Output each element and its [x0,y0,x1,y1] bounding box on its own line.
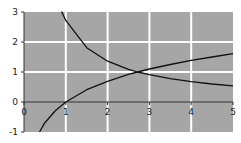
chart: 012345 -10123 [0,0,241,143]
y-tick-label: 0 [12,97,18,107]
y-axis-ticks: -10123 [9,7,24,137]
x-tick-label: 5 [230,107,236,117]
x-tick-label: 3 [147,107,153,117]
x-tick-label: 1 [63,107,69,117]
y-tick-label: 3 [12,7,18,17]
x-tick-label: 0 [21,107,27,117]
y-tick-label: 1 [12,67,18,77]
x-tick-label: 4 [188,107,194,117]
x-tick-label: 2 [105,107,111,117]
y-tick-label: 2 [12,37,18,47]
y-tick-label: -1 [9,127,18,137]
